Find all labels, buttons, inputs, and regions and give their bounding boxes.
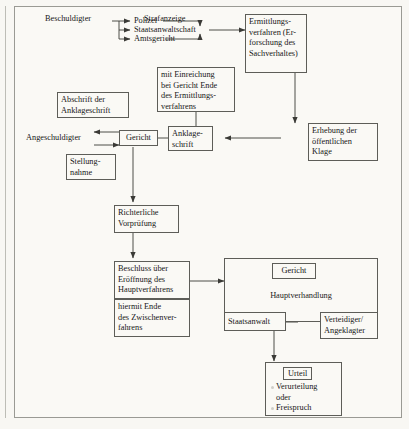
box-stellungnahme: Stellung- nahme (66, 154, 116, 180)
box-staatsanwalt: Staatsanwalt (224, 312, 286, 331)
box-beschluss-eroeffnung: Beschluss über Eröffnung des Hauptverfah… (114, 261, 190, 299)
diagram-page: Beschuldigter Strafanzeige Polizei Staat… (0, 0, 409, 429)
page-binding-edge (5, 6, 6, 418)
box-hiermit-ende: hiermit Ende des Zwischenver- fahrens (114, 299, 190, 337)
box-abschrift-anklageschrift: Abschrift der Anklageschrift (57, 92, 129, 118)
box-erhebung-klage: Erhebung der öffentlichen Klage (308, 123, 378, 161)
box-mit-einreichung: mit Einreichung bei Gericht Ende des Erm… (157, 67, 235, 112)
urteil-option-freispruch: Freispruch (271, 403, 336, 414)
box-richterliche-vorpruefung: Richterliche Vorprüfung (114, 205, 179, 233)
urteil-option-verurteilung: Verurteilung (271, 382, 336, 393)
urteil-conjunction: oder (276, 393, 336, 404)
label-angeschuldigter: Angeschuldigter (26, 133, 81, 144)
box-urteil: Urteil Verurteilung oder Freispruch (265, 362, 342, 416)
bullet-icon (271, 407, 274, 410)
box-verteidiger-angeklagter: Verteidiger/ Angeklagter (320, 312, 378, 339)
box-anklageschrift: Anklage- schrift (168, 126, 213, 151)
bullet-icon (271, 386, 274, 389)
box-gericht: Gericht (119, 130, 158, 146)
urteil-badge: Urteil (283, 367, 312, 380)
box-gericht-hauptverhandlung: Gericht (272, 263, 316, 279)
label-beschuldigter: Beschuldigter (45, 14, 91, 25)
label-hauptverhandlung: Hauptverhandlung (224, 291, 378, 300)
box-ermittlungsverfahren: Ermittlungs- verfahren (Er- forschung de… (245, 14, 307, 73)
label-amtsgericht: Amtsgericht (134, 34, 175, 45)
